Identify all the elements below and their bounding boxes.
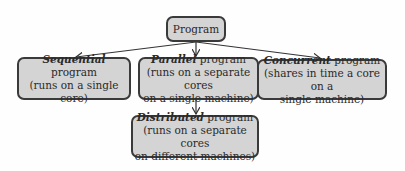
- node-concurrent-desc-line-2: single machine): [280, 93, 364, 106]
- node-sequential-emph: Sequential: [42, 53, 105, 65]
- diagram-canvas: Program Sequential program (runs on a si…: [0, 0, 405, 171]
- node-sequential: Sequential program (runs on a single cor…: [17, 57, 131, 100]
- node-parallel-desc-line-2: on a single machine): [143, 92, 253, 105]
- node-sequential-title: Sequential program: [19, 53, 129, 79]
- node-concurrent: Concurrent program (shares in time a cor…: [257, 59, 387, 100]
- node-parallel-rest: program: [197, 53, 246, 65]
- node-distributed-desc-line-1: (runs on a separate cores: [133, 124, 257, 150]
- node-concurrent-emph: Concurrent: [264, 54, 331, 66]
- node-parallel-title: Parallel program: [151, 53, 246, 66]
- node-parallel-emph: Parallel: [151, 53, 196, 65]
- node-distributed-title: Distributed program: [137, 111, 254, 124]
- node-program-label: Program: [173, 23, 219, 36]
- node-parallel-desc-line-1: (runs on a separate cores: [140, 66, 257, 92]
- node-distributed-rest: program: [204, 111, 253, 123]
- node-sequential-rest: program: [51, 66, 97, 78]
- node-concurrent-title: Concurrent program: [264, 54, 381, 67]
- node-concurrent-rest: program: [331, 54, 380, 66]
- node-program: Program: [166, 16, 226, 42]
- node-distributed-emph: Distributed: [137, 111, 204, 123]
- node-parallel: Parallel program (runs on a separate cor…: [138, 57, 259, 100]
- node-distributed-desc-line-2: on different machines): [135, 150, 255, 163]
- node-distributed: Distributed program (runs on a separate …: [131, 115, 259, 158]
- node-concurrent-desc-line-1: (shares in time a core on a: [259, 67, 385, 93]
- node-sequential-desc: (runs on a single core): [19, 79, 129, 105]
